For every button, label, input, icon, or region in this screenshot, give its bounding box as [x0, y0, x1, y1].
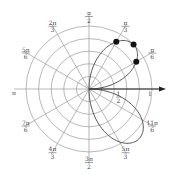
highlighted-point: [133, 59, 139, 65]
svg-text:1: 1: [148, 90, 152, 97]
angle-label-numerator: 5π: [22, 46, 30, 53]
angle-label-denominator: 6: [24, 53, 28, 60]
angle-label: 5π6: [22, 46, 30, 61]
angle-label: 11π6: [146, 119, 158, 134]
angle-label: 5π3: [122, 145, 130, 160]
angle-label-text: π: [12, 89, 16, 96]
arrowhead-icon: [159, 87, 166, 92]
angle-label-numerator: 3π: [85, 155, 93, 162]
angle-label-numerator: 4π: [49, 145, 57, 152]
angle-label-denominator: 6: [150, 126, 154, 133]
angle-label-denominator: 2: [87, 17, 91, 24]
polar-axis-arrow: [89, 87, 166, 92]
angle-label-numerator: 5π: [122, 145, 130, 152]
angle-label-numerator: 11π: [146, 119, 158, 126]
svg-text:1: 1: [117, 90, 121, 97]
angle-label-denominator: 6: [150, 53, 154, 60]
angle-label-denominator: 6: [24, 126, 28, 133]
highlighted-points: [113, 39, 139, 65]
angle-label-denominator: 3: [124, 26, 128, 33]
angle-label: π6: [148, 46, 156, 61]
angle-label: π2: [85, 9, 93, 24]
angle-label-denominator: 3: [124, 153, 128, 160]
angle-label-denominator: 2: [87, 163, 91, 170]
angle-label: 4π3: [49, 145, 57, 160]
angle-label-denominator: 3: [51, 153, 55, 160]
highlighted-point: [131, 41, 137, 47]
svg-text:2: 2: [117, 97, 121, 104]
radial-label: 1: [148, 90, 152, 97]
angle-label-numerator: 2π: [49, 19, 57, 26]
angle-label: 3π2: [85, 155, 93, 170]
highlighted-point: [113, 39, 119, 45]
angle-label-numerator: π: [124, 19, 128, 26]
angle-label-numerator: π: [87, 9, 91, 16]
polar-plot: π22π3π35π6π6π7π611π64π35π33π2 121: [0, 0, 176, 178]
angle-label: 7π6: [22, 119, 30, 134]
angle-label-numerator: 7π: [22, 119, 30, 126]
angle-label: π: [12, 89, 16, 96]
angle-label: π3: [122, 19, 130, 33]
radial-label: 12: [116, 90, 121, 104]
angle-label-denominator: 3: [51, 26, 55, 33]
angle-label-numerator: π: [150, 46, 154, 53]
